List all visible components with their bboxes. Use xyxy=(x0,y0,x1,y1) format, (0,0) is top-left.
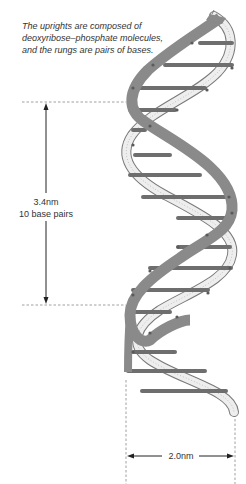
pitch-note: 10 base pairs xyxy=(14,208,78,220)
pitch-value: 3.4nm xyxy=(14,196,78,208)
dna-helix-diagram xyxy=(0,0,246,484)
pitch-label: 3.4nm 10 base pairs xyxy=(14,196,78,220)
caption-line: deoxyribose–phosphate molecules, xyxy=(22,32,172,44)
helix-caption: The uprights are composed of deoxyribose… xyxy=(22,20,172,56)
caption-line: The uprights are composed of xyxy=(22,20,172,32)
caption-line: and the rungs are pairs of bases. xyxy=(22,44,172,56)
width-value: 2.0nm xyxy=(163,450,199,462)
width-label: 2.0nm xyxy=(163,450,199,462)
